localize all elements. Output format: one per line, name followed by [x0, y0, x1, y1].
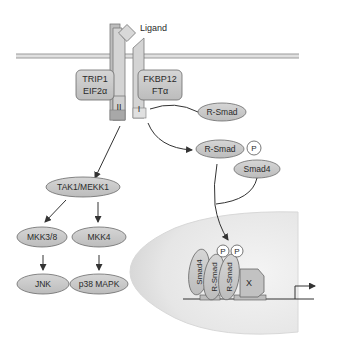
arrow-to-mkk38	[45, 200, 66, 222]
receptor-ii-partners-box: TRIP1 EIF2α	[76, 70, 114, 100]
svg-text:Smad4: Smad4	[244, 164, 271, 174]
svg-text:Smad4: Smad4	[195, 259, 204, 285]
svg-text:JNK: JNK	[35, 279, 51, 289]
svg-text:R-Smad: R-Smad	[225, 262, 234, 291]
receptor-ii-label: II	[116, 102, 121, 112]
ligand-label: Ligand	[140, 23, 167, 33]
svg-text:FKBP12: FKBP12	[143, 74, 177, 84]
svg-text:R-Smad: R-Smad	[204, 144, 235, 154]
receptor-i-label: I	[138, 104, 141, 114]
svg-text:p38 MAPK: p38 MAPK	[79, 279, 120, 289]
mkk4-node: MKK4	[72, 227, 126, 247]
tgf-beta-pathway-diagram: II I Ligand TRIP1 EIF2α FKBP12 FTα R-Sma…	[0, 0, 339, 343]
svg-text:TAK1/MEKK1: TAK1/MEKK1	[57, 182, 109, 192]
arrow-to-rsmad-p	[148, 123, 192, 150]
svg-text:R-Smad: R-Smad	[206, 107, 237, 117]
svg-text:P: P	[220, 247, 225, 256]
svg-text:R-Smad: R-Smad	[210, 262, 219, 291]
cell-membrane	[16, 54, 299, 58]
svg-text:FTα: FTα	[152, 86, 168, 96]
svg-text:P: P	[234, 247, 239, 256]
svg-text:MKK4: MKK4	[87, 232, 110, 242]
mkk38-node: MKK3/8	[17, 227, 67, 247]
smad4-merge-line	[216, 178, 257, 204]
jnk-node: JNK	[17, 274, 69, 294]
p38-mapk-node: p38 MAPK	[70, 274, 128, 294]
tak1-mekk1-node: TAK1/MEKK1	[46, 177, 120, 197]
r-smad-node: R-Smad	[150, 103, 246, 121]
svg-text:MKK3/8: MKK3/8	[27, 232, 58, 242]
receptor-i-partners-box: FKBP12 FTα	[138, 70, 182, 100]
svg-text:TRIP1: TRIP1	[82, 74, 108, 84]
smad4-node: Smad4	[234, 160, 280, 178]
arrow-to-tak1	[95, 126, 120, 178]
r-smad-phosphorylated-node: R-Smad P	[196, 140, 261, 158]
svg-text:P: P	[251, 144, 256, 153]
svg-text:X: X	[246, 278, 252, 288]
svg-text:EIF2α: EIF2α	[83, 86, 107, 96]
